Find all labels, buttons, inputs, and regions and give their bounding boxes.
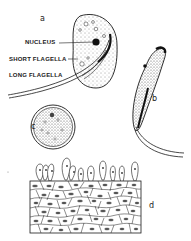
figure-drawing	[0, 0, 191, 241]
panel-label-c: c	[31, 123, 35, 131]
annotation-long-flagella: LONG FLAGELLA	[9, 72, 63, 78]
panel-label-b: b	[152, 95, 157, 103]
panel-label-d: d	[149, 202, 154, 210]
panel-label-a: a	[40, 15, 45, 23]
tissue-d	[7, 158, 141, 233]
flagellate-figure: a b c d NUCLEUS SHORT FLAGELLA LONG FLAG…	[0, 0, 191, 241]
cell-c	[31, 105, 75, 149]
cell-b	[133, 48, 184, 157]
annotation-short-flagella: SHORT FLAGELLA	[9, 56, 66, 62]
annotation-nucleus: NUCLEUS	[25, 39, 55, 45]
